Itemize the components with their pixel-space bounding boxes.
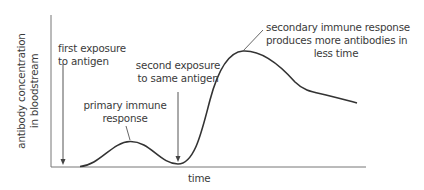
y-axis-label: antibody concentration in bloodstream xyxy=(15,33,41,148)
x-axis-label: time xyxy=(188,172,210,185)
secondary-response-line2: produces more antibodies in xyxy=(266,34,406,47)
first-exposure-label: first exposure to antigen xyxy=(58,42,126,68)
secondary-response-line1: secondary immune response xyxy=(266,21,406,34)
y-axis-label-line2: in bloodstream xyxy=(28,33,41,148)
second-exposure-line1: second exposure xyxy=(132,59,224,72)
first-exposure-line2: to antigen xyxy=(58,55,126,68)
secondary-response-line3: less time xyxy=(266,47,406,60)
y-axis-label-line1: antibody concentration xyxy=(15,33,28,148)
first-exposure-arrow xyxy=(61,64,66,165)
primary-response-line2: response xyxy=(82,112,168,125)
primary-response-label: primary immune response xyxy=(82,99,168,125)
secondary-response-pointer xyxy=(243,30,263,51)
secondary-response-label: secondary immune response produces more … xyxy=(266,21,406,60)
second-exposure-arrow xyxy=(176,92,181,162)
second-exposure-line2: to same antigen xyxy=(132,72,224,85)
primary-response-line1: primary immune xyxy=(82,99,168,112)
primary-response-pointer xyxy=(126,126,130,140)
first-exposure-line1: first exposure xyxy=(58,42,126,55)
second-exposure-label: second exposure to same antigen xyxy=(132,59,224,85)
